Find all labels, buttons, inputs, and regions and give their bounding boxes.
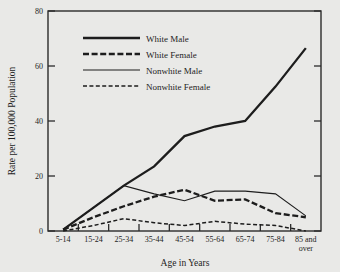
y-axis-title: Rate per 100,000 Population: [7, 66, 17, 175]
x-axis-title: Age in Years: [161, 258, 210, 268]
chart-legend: White MaleWhite FemaleNonwhite MaleNonwh…: [83, 34, 210, 92]
series-line-nonwhite-female: [63, 219, 306, 231]
legend-label-nonwhite-female: Nonwhite Female: [146, 82, 210, 92]
y-tick-label: 20: [35, 172, 43, 181]
x-tick-label: 45-54: [175, 235, 194, 244]
y-tick-label: 80: [35, 7, 43, 16]
legend-label-white-male: White Male: [146, 34, 189, 44]
series-line-nonwhite-male: [63, 186, 306, 230]
x-tick-label: 25-34: [114, 235, 133, 244]
x-tick-label: over: [299, 244, 314, 253]
x-tick-label: 55-64: [205, 235, 224, 244]
y-tick-label: 40: [35, 117, 43, 126]
data-series-group: [63, 48, 306, 231]
legend-label-white-female: White Female: [146, 50, 197, 60]
y-axis-ticks: [48, 11, 321, 231]
y-axis-tick-labels: 020406080: [35, 7, 43, 236]
x-axis-tick-labels: 5-1415-2425-3435-4445-5455-6465-7475-848…: [56, 235, 317, 253]
plot-frame: [48, 11, 321, 231]
x-tick-label: 15-24: [84, 235, 103, 244]
x-tick-label: 65-74: [236, 235, 255, 244]
line-chart: 020406080 5-1415-2425-3435-4445-5455-646…: [0, 0, 340, 272]
x-tick-label: 35-44: [145, 235, 164, 244]
chart-canvas: 020406080 5-1415-2425-3435-4445-5455-646…: [0, 0, 340, 272]
y-tick-label: 60: [35, 62, 43, 71]
series-line-white-female: [63, 190, 306, 230]
x-tick-label: 85 and: [295, 235, 317, 244]
legend-label-nonwhite-male: Nonwhite Male: [146, 66, 202, 76]
y-tick-label: 0: [39, 227, 43, 236]
x-tick-label: 5-14: [56, 235, 71, 244]
x-tick-label: 75-84: [266, 235, 285, 244]
